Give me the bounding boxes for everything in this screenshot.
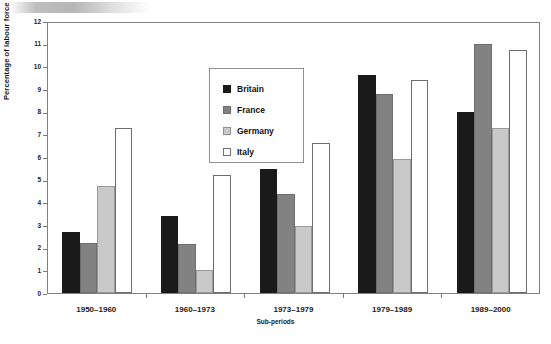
y-tick-label: 11 (19, 41, 41, 48)
y-tick-label: 1 (19, 268, 41, 275)
bar-britain-1 (62, 232, 80, 293)
legend-swatch-france-icon (223, 106, 231, 114)
legend-item-britain: Britain (223, 78, 303, 99)
legend-swatch-italy-icon (223, 148, 231, 156)
bar-britain-4 (358, 75, 376, 293)
y-tick-label: 5 (19, 177, 41, 184)
chart-legend: BritainFranceGermanyItaly (209, 68, 304, 163)
y-tick-label: 9 (19, 87, 41, 94)
x-tick-mark (146, 294, 147, 298)
x-tick-mark (244, 294, 245, 298)
bar-italy-1 (115, 128, 133, 293)
bar-france-5 (474, 44, 492, 293)
legend-label: Italy (237, 147, 254, 157)
y-tick-label: 7 (19, 132, 41, 139)
x-axis-title: Sub-periods (0, 318, 551, 325)
bar-germany-3 (295, 226, 313, 293)
x-tick-mark (343, 294, 344, 298)
x-tick-label: 1950–1960 (47, 305, 146, 314)
y-tick-label: 3 (19, 223, 41, 230)
bar-chart: Percentage of labour force 0123456789101… (0, 0, 551, 344)
bar-britain-2 (161, 216, 179, 293)
bar-italy-4 (411, 80, 429, 293)
legend-item-italy: Italy (223, 141, 303, 162)
y-tick-label: 10 (19, 64, 41, 71)
x-tick-mark (441, 294, 442, 298)
plot-area: BritainFranceGermanyItaly (47, 22, 540, 294)
legend-label: Germany (237, 126, 274, 136)
y-tick-mark (43, 294, 47, 295)
x-tick-label: 1979–1989 (343, 305, 442, 314)
y-tick-label: 4 (19, 200, 41, 207)
y-tick-label: 2 (19, 245, 41, 252)
y-tick-label: 12 (19, 19, 41, 26)
bar-germany-2 (196, 270, 214, 293)
bar-germany-5 (492, 128, 510, 293)
legend-label: France (237, 105, 265, 115)
x-tick-label: 1989–2000 (441, 305, 540, 314)
bar-germany-4 (393, 159, 411, 293)
bar-france-2 (178, 244, 196, 293)
bar-italy-5 (509, 50, 527, 293)
legend-swatch-germany-icon (223, 127, 231, 135)
legend-label: Britain (237, 84, 264, 94)
y-tick-label: 0 (19, 291, 41, 298)
bar-italy-3 (312, 143, 330, 293)
y-axis-title: Percentage of labour force (2, 0, 11, 100)
x-tick-label: 1973–1979 (244, 305, 343, 314)
bar-france-1 (80, 243, 98, 293)
y-tick-label: 6 (19, 155, 41, 162)
bar-britain-3 (260, 169, 278, 293)
legend-item-germany: Germany (223, 120, 303, 141)
bar-france-3 (277, 194, 295, 293)
bar-france-4 (376, 94, 394, 293)
legend-swatch-britain-icon (223, 85, 231, 93)
bar-germany-1 (97, 186, 115, 293)
bar-italy-2 (213, 175, 231, 293)
y-tick-label: 8 (19, 109, 41, 116)
x-tick-label: 1960–1973 (146, 305, 245, 314)
legend-item-france: France (223, 99, 303, 120)
bar-britain-5 (457, 112, 475, 293)
